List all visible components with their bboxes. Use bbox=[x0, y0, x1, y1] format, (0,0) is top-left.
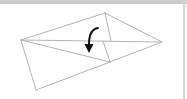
edge-bottom bbox=[36, 62, 110, 90]
crease-lines bbox=[21, 13, 162, 90]
edge-left-bottom bbox=[21, 40, 36, 90]
horizontal-crease bbox=[21, 40, 162, 42]
diagonal-crease bbox=[21, 40, 110, 62]
edge-lower-right bbox=[110, 42, 162, 62]
edge-left-top bbox=[21, 13, 105, 40]
edge-top-right bbox=[105, 13, 162, 42]
vertical-crease-lower bbox=[103, 41, 110, 62]
vertical-crease-upper bbox=[105, 13, 111, 41]
origami-diagram bbox=[0, 0, 187, 99]
